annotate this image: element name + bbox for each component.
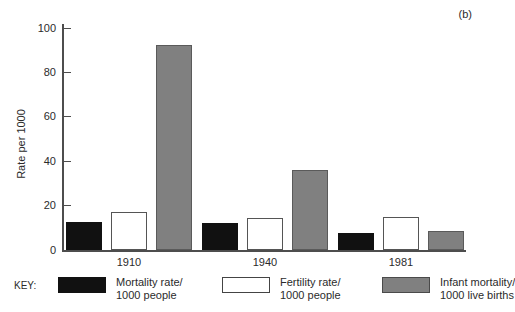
bar [292,170,328,250]
y-axis-tick-label: 80 [16,72,56,73]
y-axis-tick-label: 20 [16,205,56,206]
legend-entry: Fertility rate/1000 people [222,276,341,302]
legend-title: KEY: [14,280,36,291]
chart-legend: KEY: Mortality rate/1000 peopleFertility… [0,276,486,312]
bar [66,222,102,250]
x-axis-baseline [62,250,466,252]
legend-label-line2: 1000 live births [440,289,515,302]
y-axis-tick-label: 60 [16,116,56,117]
y-axis-tick [64,161,71,162]
legend-label-line2: 1000 people [280,289,341,302]
y-axis-tick [64,116,71,117]
legend-swatch [222,277,270,293]
legend-swatch [58,277,106,293]
x-axis-group-label: 1981 [341,256,461,268]
y-axis-spine [62,24,64,252]
legend-label-line2: 1000 people [116,289,183,302]
y-axis-tick [64,72,71,73]
y-axis-tick-label: 0 [16,250,56,251]
bar [247,218,283,250]
bar [202,223,238,250]
bar [383,217,419,250]
bar [428,231,464,250]
legend-label-line1: Fertility rate/ [280,276,341,289]
y-axis-tick-label: 40 [16,161,56,162]
legend-label-line1: Infant mortality/ [440,276,515,289]
legend-swatch [382,277,430,293]
y-axis-title: Rate per 1000 [15,89,27,199]
legend-label: Mortality rate/1000 people [116,276,183,302]
chart-plot-area: Rate per 1000 020406080100 191019401981 [0,0,486,270]
x-axis-group-label: 1910 [69,256,189,268]
y-axis-tick-label: 100 [16,28,56,29]
legend-label-line1: Mortality rate/ [116,276,183,289]
legend-entry: Mortality rate/1000 people [58,276,183,302]
legend-label: Infant mortality/1000 live births [440,276,515,302]
bar [111,212,147,250]
y-axis-tick [64,205,71,206]
bar [338,233,374,250]
y-axis-tick [64,28,71,29]
legend-label: Fertility rate/1000 people [280,276,341,302]
x-axis-group-label: 1940 [205,256,325,268]
legend-entry: Infant mortality/1000 live births [382,276,515,302]
bar [156,45,192,250]
